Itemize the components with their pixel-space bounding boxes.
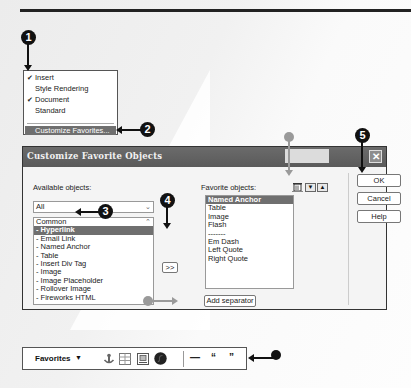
dialog-titlebar[interactable]: Customize Favorite Objects ✕ [23, 147, 386, 167]
toolbar-context-menu: ✔Insert Style Rendering ✔Document Standa… [23, 70, 118, 135]
check-icon: ✔ [27, 73, 35, 83]
trash-icon[interactable] [292, 182, 303, 192]
chevron-down-icon: ⌄ [145, 202, 151, 212]
callout-gray-separator [143, 296, 153, 306]
top-rule [20, 9, 411, 12]
favorite-objects-label: Favorite objects: [201, 183, 256, 192]
move-down-button[interactable]: ▼ [305, 183, 316, 192]
callout-1: 1 [21, 30, 36, 45]
available-objects-label: Available objects: [33, 183, 91, 192]
toolbar-separator [183, 351, 184, 367]
callout-5-arrow [358, 167, 366, 173]
favorite-objects-list[interactable]: Named Anchor Table Image Flash ------- E… [205, 195, 294, 289]
callout-gray-separator-line [152, 300, 172, 302]
cancel-button[interactable]: Cancel [357, 192, 401, 205]
callout-4-arrow [163, 223, 171, 229]
check-icon: ✔ [27, 95, 35, 105]
list-item[interactable]: Right Quote [206, 255, 293, 263]
add-separator-button[interactable]: Add separator [204, 295, 256, 307]
favorites-toolbar: Favorites ▼ — “ ” [22, 347, 247, 370]
callout-gray-move-line [288, 141, 290, 171]
callout-2: 2 [140, 122, 155, 137]
favorite-actions-bar [285, 149, 329, 163]
customize-favorites-dialog: Customize Favorite Objects ✕ Available o… [22, 146, 387, 310]
caret-down-icon[interactable]: ▼ [75, 354, 82, 361]
callout-2-line [121, 129, 141, 131]
help-button[interactable]: Help [357, 210, 401, 223]
callout-3-arrow [75, 208, 81, 216]
callout-1-arrow [24, 65, 32, 71]
menu-item-standard[interactable]: Standard [27, 106, 65, 116]
menu-separator [27, 123, 114, 124]
available-objects-list[interactable]: Common - Hyperlink - Email Link - Named … [33, 217, 154, 305]
image-icon[interactable] [137, 353, 149, 365]
callout-toolbar-dot [271, 350, 281, 360]
callout-5-line [361, 142, 363, 168]
callout-1-line [27, 44, 29, 66]
dialog-divider [348, 173, 349, 305]
flash-icon[interactable] [154, 352, 167, 365]
dialog-title: Customize Favorite Objects [27, 151, 162, 161]
em-dash-button[interactable]: — [190, 352, 200, 363]
ok-button[interactable]: OK [357, 174, 401, 187]
menu-item-document[interactable]: ✔Document [27, 95, 69, 105]
add-to-favorites-button[interactable]: >> [162, 262, 178, 273]
callout-gray-move [284, 132, 294, 142]
favorites-menu-label[interactable]: Favorites [35, 354, 71, 363]
left-quote-button[interactable]: “ [211, 352, 216, 363]
callout-4: 4 [160, 193, 175, 208]
callout-gray-move-arrow [285, 170, 293, 176]
scroll-up-icon[interactable]: ⌃ [145, 218, 151, 226]
named-anchor-icon[interactable] [103, 353, 115, 365]
list-item[interactable]: - Fireworks HTML [34, 294, 153, 302]
callout-3: 3 [98, 204, 113, 219]
menu-item-insert[interactable]: ✔Insert [27, 73, 54, 83]
menu-item-customize-favorites[interactable]: Customize Favorites... [25, 126, 116, 135]
table-icon[interactable] [119, 353, 131, 365]
callout-gray-separator-arrow [172, 297, 178, 305]
move-up-button[interactable]: ▲ [317, 183, 328, 192]
callout-5: 5 [355, 128, 370, 143]
callout-3-line [80, 211, 99, 213]
right-quote-button[interactable]: ” [229, 352, 234, 363]
menu-item-style-rendering[interactable]: Style Rendering [27, 84, 88, 94]
close-button[interactable]: ✕ [369, 150, 382, 163]
